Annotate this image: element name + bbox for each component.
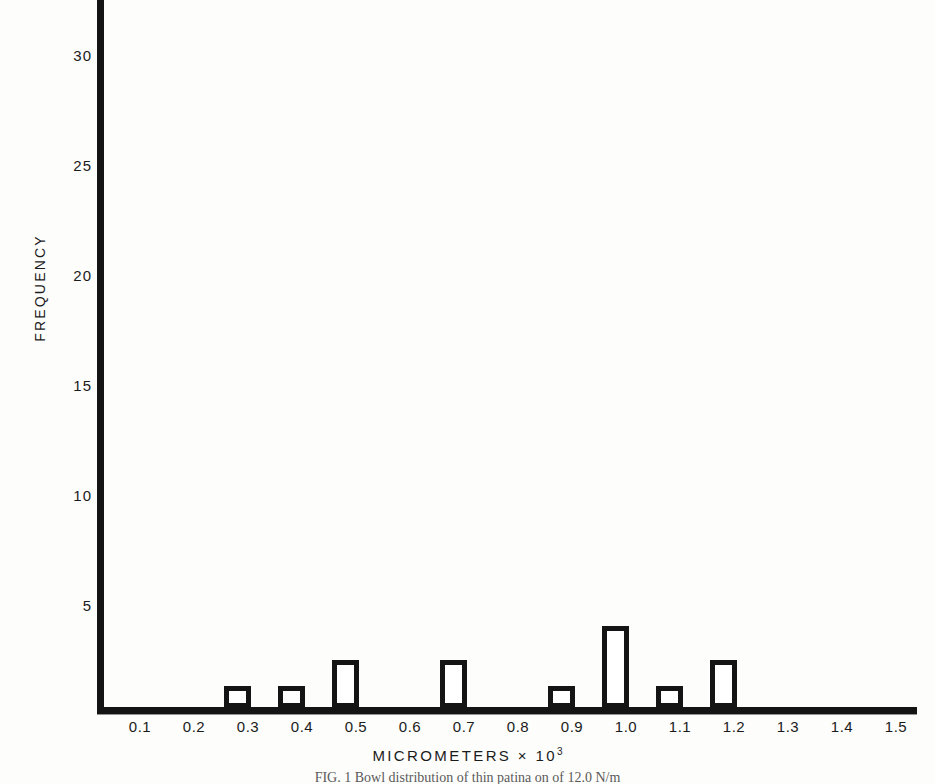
y-tick-label-10: 10: [54, 487, 92, 504]
x-tick-label-1.1: 1.1: [669, 718, 691, 735]
y-tick-label-20: 20: [54, 267, 92, 284]
y-axis-title: FREQUENCY: [32, 208, 48, 368]
x-tick-label-0.8: 0.8: [507, 718, 529, 735]
bar-1.2[interactable]: [710, 660, 737, 708]
x-tick-label-1.5: 1.5: [885, 718, 907, 735]
x-tick-label-0.5: 0.5: [345, 718, 367, 735]
x-tick-label-0.3: 0.3: [237, 718, 259, 735]
bar-1.0[interactable]: [602, 626, 629, 708]
x-axis-title: MICROMETERS × 103: [0, 746, 935, 764]
y-tick-label-25: 25: [54, 157, 92, 174]
bar-1.1[interactable]: [656, 686, 683, 708]
y-tick-label-15: 15: [54, 377, 92, 394]
y-tick-label-5: 5: [54, 597, 92, 614]
x-tick-label-1.2: 1.2: [723, 718, 745, 735]
x-axis-line-shadow: [97, 713, 917, 715]
bar-0.5[interactable]: [332, 660, 359, 708]
x-tick-label-0.6: 0.6: [399, 718, 421, 735]
x-tick-label-1.3: 1.3: [777, 718, 799, 735]
bar-0.7[interactable]: [440, 660, 467, 708]
x-tick-label-0.7: 0.7: [453, 718, 475, 735]
y-tick-label-30: 30: [54, 47, 92, 64]
x-tick-label-1.0: 1.0: [615, 718, 637, 735]
x-tick-label-1.4: 1.4: [831, 718, 853, 735]
x-tick-label-0.4: 0.4: [291, 718, 313, 735]
x-tick-label-0.2: 0.2: [183, 718, 205, 735]
x-tick-label-0.9: 0.9: [561, 718, 583, 735]
x-axis-title-text: MICROMETERS × 10: [372, 747, 557, 764]
x-tick-label-0.1: 0.1: [129, 718, 151, 735]
bar-0.9[interactable]: [548, 686, 575, 708]
bar-0.3[interactable]: [224, 686, 251, 708]
figure-histogram: 30 25 20 15 10 5 FREQUENCY 0.1 0.2 0.3 0…: [0, 0, 935, 784]
x-axis-title-exponent: 3: [557, 746, 563, 757]
bar-0.4[interactable]: [278, 686, 305, 708]
plot-area: [97, 0, 917, 708]
figure-caption: FIG. 1 Bowl distribution of thin patina …: [0, 770, 935, 784]
